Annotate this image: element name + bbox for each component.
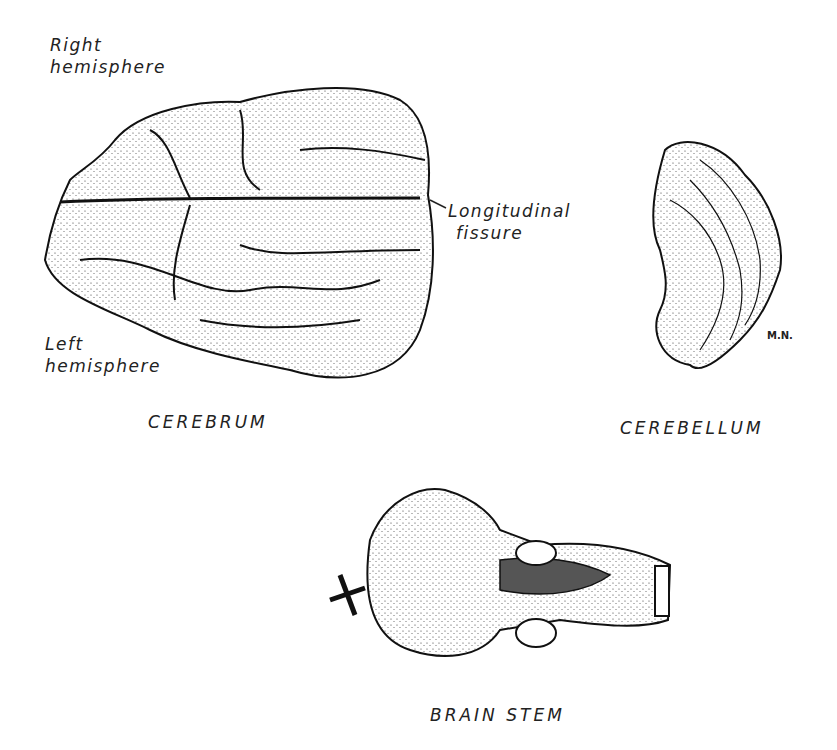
artist-signature: M.N.	[767, 330, 793, 341]
left-hemisphere-label: Left hemisphere	[45, 333, 161, 377]
longitudinal-fissure-label-line2: fissure	[448, 222, 571, 244]
brain-stem-drawing	[367, 489, 670, 656]
cerebellum-drawing	[653, 142, 781, 368]
longitudinal-fissure-label: Longitudinal fissure	[448, 200, 571, 244]
left-hemisphere-label-line1: Left	[45, 333, 161, 355]
brain-stem-caption: BRAIN STEM	[430, 705, 565, 725]
right-hemisphere-label-line1: Right	[50, 34, 166, 56]
cerebellum-caption: CEREBELLUM	[620, 418, 764, 438]
right-hemisphere-label: Right hemisphere	[50, 34, 166, 78]
left-hemisphere-label-line2: hemisphere	[45, 355, 161, 377]
right-hemisphere-label-line2: hemisphere	[50, 56, 166, 78]
cerebrum-caption: CEREBRUM	[148, 412, 268, 432]
longitudinal-fissure-label-line1: Longitudinal	[448, 200, 571, 222]
